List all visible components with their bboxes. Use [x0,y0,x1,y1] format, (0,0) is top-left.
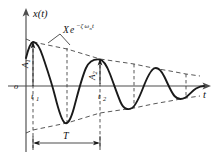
figure-canvas: x(t) t o X e − ζ ω n t t 1 t [0,0,220,158]
tick-label-t2-base: t [98,91,101,101]
tick-label-t1-base: t [31,91,34,101]
tick-label-t1-subscript: 1 [36,95,39,102]
period-label: T [63,130,70,141]
envelope-leader-right [60,34,70,45]
damped-oscillation-figure: x(t) t o X e − ζ ω n t t 1 t [0,0,220,158]
envelope-label-x: X [62,25,70,35]
upper-envelope-curve [26,39,200,76]
tick-label-t2-subscript: 2 [103,95,107,102]
origin-label: o [14,81,18,91]
envelope-label-e: e [70,25,74,35]
amplitude-label-a2-subscript: 2 [91,71,98,75]
tick-label-t2: t 2 [98,91,107,102]
x-axis-label: t [203,89,207,100]
amplitude-label-a1-subscript: 1 [24,59,31,62]
drop-lines-group [33,43,186,148]
amplitude-label-a2: A 2 [87,71,98,82]
envelope-equation-label: X e − ζ ω n t [62,22,94,35]
envelope-leader-group [48,34,70,45]
response-curve-group [26,42,204,123]
damped-oscillation-curve [26,42,204,123]
envelope-leader-left [48,34,60,43]
axes-group [8,8,211,152]
amplitude-label-a1: A 1 [20,59,31,69]
envelope-exponent-t: t [92,22,94,29]
y-axis-label: x(t) [32,8,48,20]
tick-label-t1: t 1 [31,91,39,102]
lower-envelope-curve [26,96,200,133]
